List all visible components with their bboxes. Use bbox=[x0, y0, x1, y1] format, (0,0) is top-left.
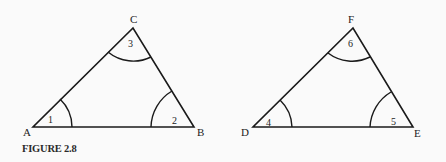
triangle-abc: A B C 1 2 3 bbox=[23, 13, 204, 138]
angle-label-1: 1 bbox=[48, 114, 53, 125]
angle-label-5: 5 bbox=[391, 116, 396, 127]
angle-label-3: 3 bbox=[128, 38, 133, 49]
vertex-label-c: C bbox=[130, 13, 137, 25]
angle-3-arc bbox=[108, 52, 151, 61]
angle-label-4: 4 bbox=[266, 117, 271, 128]
vertex-label-d: D bbox=[241, 126, 249, 138]
vertex-label-e: E bbox=[414, 127, 421, 139]
angle-2-arc bbox=[151, 91, 172, 127]
angle-label-2: 2 bbox=[172, 115, 177, 126]
vertex-label-b: B bbox=[197, 126, 204, 138]
figure-caption: FIGURE 2.8 bbox=[22, 143, 77, 154]
angle-6-arc bbox=[328, 53, 370, 61]
triangle-def: D E F 4 5 6 bbox=[241, 13, 421, 139]
angle-1-arc bbox=[60, 99, 72, 127]
angle-5-arc bbox=[370, 92, 391, 127]
angle-label-6: 6 bbox=[348, 38, 353, 49]
vertex-label-a: A bbox=[23, 126, 31, 138]
figure-canvas: A B C 1 2 3 D E F 4 5 6 bbox=[0, 0, 446, 162]
triangle-def-outline bbox=[253, 28, 413, 127]
triangle-abc-outline bbox=[33, 28, 194, 127]
angle-4-arc bbox=[280, 100, 292, 127]
vertex-label-f: F bbox=[348, 13, 354, 25]
